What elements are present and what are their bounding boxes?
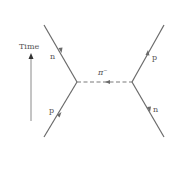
time-axis: Time (19, 42, 39, 121)
pion-exchange: π− (77, 67, 132, 84)
feynman-diagram: Time n p π− p n (0, 0, 180, 191)
label-n-left: n (50, 52, 55, 61)
label-p-left: p (49, 106, 54, 115)
neutron-line-left (44, 25, 77, 82)
right-vertex: p n (132, 25, 164, 137)
time-arrow-icon (29, 53, 34, 59)
label-n-right: n (153, 105, 158, 114)
time-label: Time (19, 42, 39, 51)
left-vertex: n p (44, 25, 77, 137)
pion-label: π− (97, 67, 107, 77)
pion-arrow-icon (105, 80, 110, 84)
label-p-right: p (152, 53, 157, 62)
proton-left-arrow-icon (57, 112, 62, 118)
neutron-line-right (132, 82, 164, 137)
